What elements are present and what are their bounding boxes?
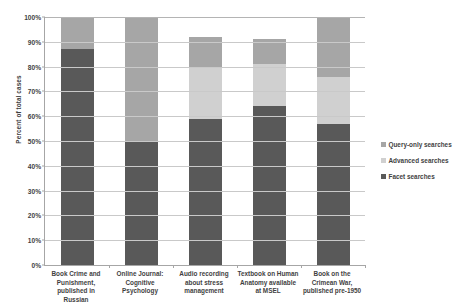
y-tick-mark	[42, 190, 45, 191]
bar-segment[interactable]	[61, 49, 94, 265]
legend-swatch-icon	[381, 174, 386, 179]
y-tick-label: 0%	[31, 262, 41, 269]
bar-segment[interactable]	[125, 141, 158, 265]
x-tick-mark	[173, 265, 174, 268]
plot-area: 100%90%80%70%60%50%40%30%20%10%0%	[44, 17, 365, 266]
x-category-label-line: published pre-1950	[300, 287, 364, 296]
y-axis-title: Percent of total cases	[15, 45, 22, 175]
bar-segment[interactable]	[125, 17, 158, 141]
y-tick-mark	[42, 240, 45, 241]
gridline	[45, 240, 365, 241]
x-tick-mark	[237, 265, 238, 268]
x-category-label-line: Psychology	[108, 287, 172, 296]
x-category-label-line: management	[172, 287, 236, 296]
x-category-label-line: Punishment,	[44, 279, 108, 288]
bar-segment[interactable]	[317, 124, 350, 265]
bar-segment[interactable]	[317, 17, 350, 77]
x-category-label-line: Crimean War,	[300, 279, 364, 288]
x-category-label-line: Textbook on Human	[236, 270, 300, 279]
legend-item[interactable]: Advanced searches	[381, 154, 463, 167]
x-category-label-line: at MSEL	[236, 287, 300, 296]
legend-label: Advanced searches	[389, 157, 449, 164]
y-tick-label: 70%	[28, 88, 41, 95]
legend-item[interactable]: Facet searches	[381, 170, 463, 183]
y-tick-mark	[42, 66, 45, 67]
legend-label: Facet searches	[389, 173, 435, 180]
chart-legend: Query-only searchesAdvanced searchesFace…	[381, 138, 463, 186]
x-category-label: Online Journal:CognitivePsychology	[108, 270, 172, 296]
stacked-bar-chart: Percent of total cases 100%90%80%70%60%5…	[0, 0, 463, 306]
x-category-label: Textbook on HumanAnatomy availableat MSE…	[236, 270, 300, 296]
x-category-label: Audio recordingabout stressmanagement	[172, 270, 236, 296]
y-tick-label: 90%	[28, 38, 41, 45]
bar-segment[interactable]	[253, 64, 286, 106]
y-tick-mark	[42, 215, 45, 216]
gridline	[45, 191, 365, 192]
x-category-label-line: about stress	[172, 279, 236, 288]
y-tick-mark	[42, 17, 45, 18]
x-tick-mark	[301, 265, 302, 268]
gridline	[45, 67, 365, 68]
y-tick-mark	[42, 91, 45, 92]
legend-label: Query-only searches	[389, 141, 452, 148]
y-tick-mark	[42, 116, 45, 117]
x-axis-labels: Book Crime andPunishment,published in Ru…	[44, 270, 364, 306]
x-category-label-line: Audio recording	[172, 270, 236, 279]
bar-segment[interactable]	[253, 106, 286, 265]
y-tick-label: 50%	[28, 138, 41, 145]
x-category-label-line: Anatomy available	[236, 279, 300, 288]
gridline	[45, 215, 365, 216]
x-category-label-line: Book on the	[300, 270, 364, 279]
gridline	[45, 17, 365, 18]
y-tick-label: 40%	[28, 162, 41, 169]
y-tick-mark	[42, 165, 45, 166]
bar-segment[interactable]	[189, 67, 222, 119]
legend-item[interactable]: Query-only searches	[381, 138, 463, 151]
x-category-label: Book Crime andPunishment,published in Ru…	[44, 270, 108, 304]
x-category-label-line: Online Journal:	[108, 270, 172, 279]
gridline	[45, 141, 365, 142]
bar-segment[interactable]	[61, 17, 94, 49]
bar-segment[interactable]	[253, 39, 286, 64]
x-tick-mark	[365, 265, 366, 268]
y-tick-label: 10%	[28, 237, 41, 244]
legend-swatch-icon	[381, 158, 386, 163]
y-tick-label: 30%	[28, 187, 41, 194]
y-tick-mark	[42, 141, 45, 142]
y-tick-mark	[42, 41, 45, 42]
y-tick-label: 80%	[28, 63, 41, 70]
legend-swatch-icon	[381, 142, 386, 147]
x-category-label: Book on theCrimean War,published pre-195…	[300, 270, 364, 296]
gridline	[45, 166, 365, 167]
x-category-label-line: Cognitive	[108, 279, 172, 288]
gridline	[45, 42, 365, 43]
gridline	[45, 116, 365, 117]
y-tick-label: 60%	[28, 113, 41, 120]
x-category-label-line: published in Russian	[44, 287, 108, 304]
y-tick-label: 20%	[28, 212, 41, 219]
gridline	[45, 91, 365, 92]
x-category-label-line: Book Crime and	[44, 270, 108, 279]
y-tick-mark	[42, 265, 45, 266]
x-tick-mark	[109, 265, 110, 268]
y-tick-label: 100%	[24, 14, 41, 21]
